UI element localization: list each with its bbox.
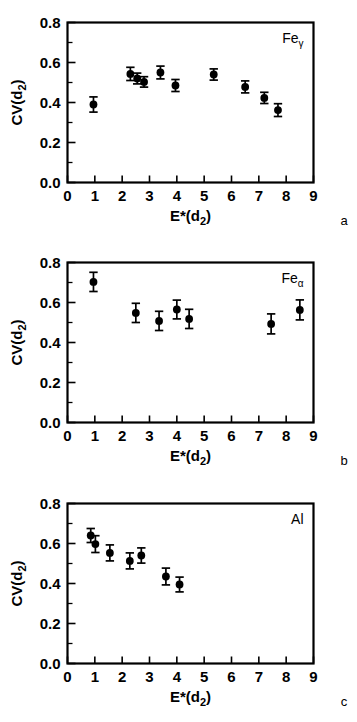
x-tick-label: 9: [309, 187, 317, 204]
data-marker: [267, 320, 275, 328]
y-tick-label: 0.6: [40, 535, 61, 552]
plot-frame: [68, 504, 314, 664]
plot-frame: [68, 263, 314, 423]
data-marker: [90, 278, 98, 286]
data-point: [137, 548, 145, 563]
data-point: [140, 77, 148, 87]
y-axis: 0.00.20.40.60.8: [40, 495, 76, 672]
data-point: [171, 80, 179, 92]
plot-b: 01234567890.00.20.40.60.8E*(d2)CV(d2)Feα…: [0, 240, 357, 480]
data-point: [296, 300, 304, 320]
data-point: [156, 66, 164, 79]
data-point: [260, 92, 268, 103]
y-tick-label: 0.0: [40, 655, 61, 672]
figure-three-panel-scatter: 01234567890.00.20.40.60.8E*(d2)CV(d2)Feγ…: [0, 0, 357, 722]
series-label: Feα: [281, 270, 303, 289]
data-marker: [296, 306, 304, 314]
x-tick-label: 1: [91, 668, 99, 685]
x-tick-label: 0: [63, 668, 71, 685]
y-axis-title: CV(d2): [8, 319, 28, 365]
data-point: [175, 577, 183, 592]
x-tick-label: 8: [282, 668, 290, 685]
y-tick-label: 0.2: [40, 374, 61, 391]
x-tick-label: 6: [227, 187, 235, 204]
x-tick-label: 6: [227, 427, 235, 444]
data-marker: [241, 83, 249, 91]
series-label: Feγ: [282, 30, 303, 49]
data-marker: [91, 540, 99, 548]
plot-frame: [68, 23, 314, 183]
x-tick-label: 8: [282, 187, 290, 204]
x-axis: 0123456789: [63, 657, 317, 685]
y-tick-label: 0.0: [40, 414, 61, 431]
data-point: [106, 545, 114, 561]
data-series: [87, 529, 184, 592]
data-marker: [185, 315, 193, 323]
panel-letter: c: [341, 694, 348, 709]
y-axis-title: CV(d2): [8, 79, 28, 125]
panel-letter: a: [340, 213, 348, 228]
x-tick-label: 0: [63, 427, 71, 444]
y-tick-label: 0.4: [40, 94, 62, 111]
y-tick-label: 0.8: [40, 254, 61, 271]
data-point: [155, 311, 163, 330]
data-point: [274, 104, 282, 117]
plot-a: 01234567890.00.20.40.60.8E*(d2)CV(d2)Feγ…: [0, 0, 357, 240]
x-tick-label: 7: [255, 427, 263, 444]
data-series: [89, 66, 282, 116]
y-tick-label: 0.8: [40, 14, 61, 31]
data-series: [89, 272, 304, 334]
x-axis: 0123456789: [63, 176, 317, 204]
panel-b: 01234567890.00.20.40.60.8E*(d2)CV(d2)Feα…: [0, 240, 357, 480]
x-tick-label: 9: [309, 668, 317, 685]
data-marker: [133, 75, 141, 83]
x-tick-label: 5: [200, 187, 208, 204]
x-tick-label: 8: [282, 427, 290, 444]
data-point: [133, 73, 141, 84]
x-tick-label: 4: [173, 427, 182, 444]
data-point: [267, 314, 275, 334]
x-tick-label: 9: [309, 427, 317, 444]
x-tick-label: 5: [200, 668, 208, 685]
data-point: [132, 303, 140, 322]
panel-letter: b: [340, 453, 347, 468]
x-tick-label: 6: [227, 668, 235, 685]
y-axis: 0.00.20.40.60.8: [40, 254, 76, 431]
y-tick-label: 0.8: [40, 495, 61, 512]
x-tick-label: 5: [200, 427, 208, 444]
x-tick-label: 7: [255, 668, 263, 685]
x-tick-label: 3: [145, 427, 153, 444]
y-tick-label: 0.4: [40, 575, 62, 592]
data-marker: [162, 573, 170, 581]
x-tick-label: 0: [63, 187, 71, 204]
y-tick-label: 0.6: [40, 294, 61, 311]
data-marker: [106, 549, 114, 557]
x-tick-label: 2: [118, 427, 126, 444]
x-tick-label: 3: [145, 187, 153, 204]
x-axis-title: E*(d2): [170, 688, 211, 708]
x-tick-label: 3: [145, 668, 153, 685]
x-tick-label: 1: [91, 427, 99, 444]
data-marker: [155, 317, 163, 325]
plot-c: 01234567890.00.20.40.60.8E*(d2)CV(d2)Alc: [0, 481, 357, 721]
y-tick-label: 0.2: [40, 134, 61, 151]
data-marker: [176, 581, 184, 589]
x-axis-title: E*(d2): [170, 207, 211, 227]
data-point: [210, 69, 218, 80]
data-point: [89, 272, 97, 291]
data-marker: [173, 306, 181, 314]
data-marker: [172, 82, 180, 90]
x-tick-label: 4: [173, 668, 182, 685]
x-tick-label: 2: [118, 187, 126, 204]
y-axis-title: CV(d2): [8, 560, 28, 606]
x-tick-label: 2: [118, 668, 126, 685]
data-point: [126, 553, 134, 569]
series-label: Al: [291, 511, 303, 527]
data-marker: [140, 78, 148, 86]
y-tick-label: 0.0: [40, 174, 61, 191]
y-tick-label: 0.4: [40, 334, 62, 351]
y-axis: 0.00.20.40.60.8: [40, 14, 76, 191]
data-marker: [137, 552, 145, 560]
data-marker: [126, 557, 134, 565]
data-point: [162, 568, 170, 585]
